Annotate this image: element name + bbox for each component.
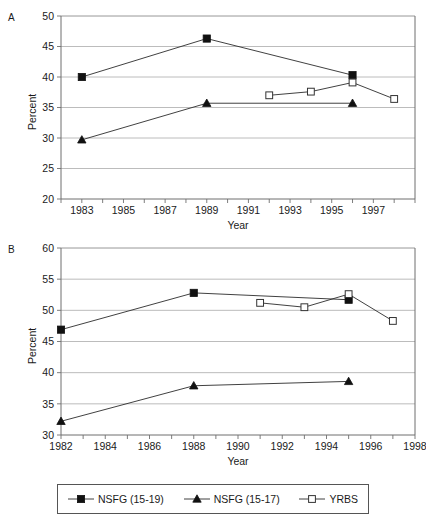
data-point-marker — [77, 495, 84, 502]
series-filled-square — [78, 35, 356, 81]
panel-b-y-axis-label: Percent — [26, 327, 38, 363]
y-tick-label: 20 — [42, 193, 54, 205]
x-tick-label: 1989 — [195, 204, 219, 216]
series-filled-triangle — [57, 377, 353, 424]
y-tick-label: 60 — [42, 242, 54, 254]
data-point-marker — [190, 289, 197, 296]
y-tick-label: 35 — [42, 101, 54, 113]
x-tick-label: 1983 — [70, 204, 94, 216]
data-point-marker — [349, 79, 356, 86]
chart-panel-b: B Percent Year 3035404550556019821984198… — [0, 232, 426, 474]
panel-a-y-axis-label: Percent — [26, 93, 38, 129]
legend-marker-filled-triangle-icon — [184, 493, 210, 505]
y-tick-label: 45 — [42, 40, 54, 52]
series-line — [82, 103, 353, 140]
x-tick-label: 1992 — [271, 440, 295, 452]
x-tick-label: 1985 — [112, 204, 136, 216]
x-tick-label: 1996 — [359, 440, 383, 452]
series-line — [269, 82, 394, 98]
y-tick-label: 40 — [42, 71, 54, 83]
panel-b-plot: 3035404550556019821984198619881990199219… — [0, 232, 426, 474]
figure-legend: NSFG (15-19)NSFG (15-17)YRBS — [57, 484, 369, 514]
x-tick-label: 1986 — [138, 440, 162, 452]
panel-a-x-axis-label: Year — [198, 219, 278, 231]
chart-panel-a: A Percent Year 2025303540455019831985198… — [0, 0, 426, 228]
y-tick-label: 40 — [42, 366, 54, 378]
y-tick-label: 45 — [42, 335, 54, 347]
legend-label: NSFG (15-17) — [214, 493, 280, 505]
y-tick-label: 30 — [42, 429, 54, 441]
data-point-marker — [309, 496, 316, 503]
data-point-marker — [344, 377, 352, 384]
series-filled-triangle — [78, 99, 357, 143]
legend-label: NSFG (15-19) — [98, 493, 164, 505]
y-tick-label: 50 — [42, 304, 54, 316]
series-line — [260, 294, 393, 321]
panel-b-x-axis-label: Year — [198, 455, 278, 467]
y-tick-label: 35 — [42, 398, 54, 410]
data-point-marker — [389, 318, 396, 325]
data-point-marker — [349, 72, 356, 79]
x-tick-label: 1984 — [94, 440, 118, 452]
panel-b-letter: B — [8, 244, 15, 255]
data-point-marker — [78, 73, 85, 80]
figure-container: A Percent Year 2025303540455019831985198… — [0, 0, 426, 524]
legend-item-0[interactable]: NSFG (15-19) — [68, 493, 164, 505]
series-filled-square — [57, 289, 352, 333]
legend-marker-open-square-icon — [299, 493, 325, 505]
y-tick-label: 50 — [42, 10, 54, 22]
x-tick-label: 1990 — [226, 440, 250, 452]
data-point-marker — [203, 35, 210, 42]
panel-a-plot: 2025303540455019831985198719891991199319… — [0, 0, 426, 228]
x-tick-label: 1998 — [403, 440, 426, 452]
legend-label: YRBS — [329, 493, 358, 505]
data-point-marker — [203, 99, 211, 106]
x-tick-label: 1988 — [182, 440, 206, 452]
x-tick-label: 1995 — [320, 204, 344, 216]
data-point-marker — [345, 291, 352, 298]
data-point-marker — [193, 495, 201, 502]
series-line — [82, 39, 353, 77]
legend-item-1[interactable]: NSFG (15-17) — [184, 493, 280, 505]
data-point-marker — [266, 92, 273, 99]
x-tick-label: 1994 — [315, 440, 339, 452]
series-open-square — [266, 79, 398, 102]
legend-marker-filled-square-icon — [68, 493, 94, 505]
y-tick-label: 55 — [42, 273, 54, 285]
x-tick-label: 1993 — [278, 204, 302, 216]
legend-item-2[interactable]: YRBS — [299, 493, 358, 505]
data-point-marker — [307, 88, 314, 95]
data-point-marker — [391, 96, 398, 103]
series-line — [61, 293, 349, 330]
x-tick-label: 1991 — [237, 204, 261, 216]
y-tick-label: 30 — [42, 132, 54, 144]
data-point-marker — [348, 99, 356, 106]
series-line — [61, 381, 349, 421]
x-tick-label: 1997 — [362, 204, 386, 216]
y-tick-label: 25 — [42, 162, 54, 174]
data-point-marker — [301, 304, 308, 311]
data-point-marker — [57, 326, 64, 333]
x-tick-label: 1982 — [49, 440, 73, 452]
series-open-square — [257, 291, 397, 325]
data-point-marker — [257, 299, 264, 306]
x-tick-label: 1987 — [153, 204, 177, 216]
panel-a-letter: A — [8, 12, 15, 23]
